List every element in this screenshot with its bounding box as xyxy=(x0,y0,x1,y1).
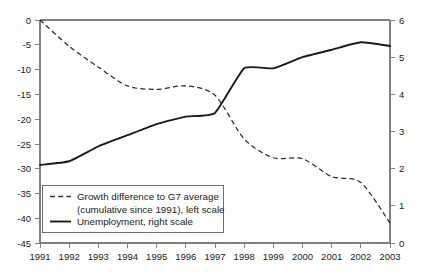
left-tick-label: -30 xyxy=(17,163,31,174)
x-tick-label: 1994 xyxy=(117,251,138,262)
chart-legend: Growth difference to G7 average (cumulat… xyxy=(43,186,226,233)
left-tick-label: -5 xyxy=(23,39,31,50)
right-tick-label: 6 xyxy=(399,15,404,26)
x-axis-ticks: 1991199219931994199519961997199819992000… xyxy=(29,243,400,262)
x-tick-label: 1993 xyxy=(88,251,109,262)
left-tick-label: 0 xyxy=(26,15,31,26)
left-tick-label: -25 xyxy=(17,139,31,150)
line-chart: 0 -5 -10 -15 -20 -25 -30 -35 -40 -45 6 xyxy=(0,0,428,272)
x-tick-label: 1999 xyxy=(263,251,284,262)
right-axis-ticks: 6 5 4 3 2 1 0 xyxy=(390,15,404,249)
chart-container: 0 -5 -10 -15 -20 -25 -30 -35 -40 -45 6 xyxy=(0,0,428,272)
x-tick-label: 2003 xyxy=(379,251,400,262)
x-tick-label: 1991 xyxy=(29,251,50,262)
left-tick-label: -15 xyxy=(17,89,31,100)
right-tick-label: 3 xyxy=(399,126,404,137)
legend-label-growth-line1: Growth difference to G7 average xyxy=(77,191,220,202)
x-tick-label: 2002 xyxy=(350,251,371,262)
left-tick-label: -40 xyxy=(17,213,31,224)
legend-label-unemployment: Unemployment, right scale xyxy=(77,216,194,227)
series-unemployment xyxy=(40,42,390,165)
right-tick-label: 2 xyxy=(399,163,404,174)
x-tick-label: 1995 xyxy=(146,251,167,262)
x-tick-label: 1998 xyxy=(234,251,255,262)
right-tick-label: 1 xyxy=(399,200,404,211)
right-tick-label: 5 xyxy=(399,52,404,63)
x-tick-label: 1996 xyxy=(175,251,196,262)
right-tick-label: 4 xyxy=(399,89,404,100)
left-tick-label: -20 xyxy=(17,114,31,125)
x-tick-label: 1997 xyxy=(204,251,225,262)
left-tick-label: -45 xyxy=(17,238,31,249)
left-tick-label: -35 xyxy=(17,188,31,199)
left-tick-label: -10 xyxy=(17,64,31,75)
x-tick-label: 2001 xyxy=(321,251,342,262)
x-tick-label: 2000 xyxy=(292,251,313,262)
x-tick-label: 1992 xyxy=(59,251,80,262)
legend-label-growth-line2: (cumulative since 1991), left scale xyxy=(77,204,225,215)
right-tick-label: 0 xyxy=(399,238,404,249)
left-axis-ticks: 0 -5 -10 -15 -20 -25 -30 -35 -40 -45 xyxy=(17,15,40,249)
